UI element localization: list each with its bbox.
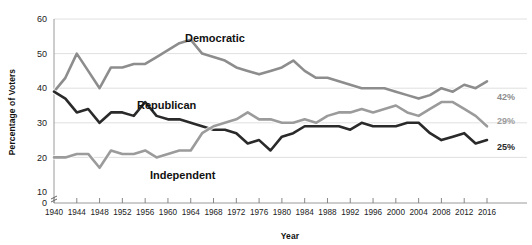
x-tick-label: 1980 xyxy=(273,208,292,217)
y-tick-label: 10 xyxy=(37,187,47,197)
x-tick-label: 1964 xyxy=(182,208,201,217)
chart-svg: 0102030405060 19401944194819521956196019… xyxy=(0,0,532,245)
end-label-democratic: 42% xyxy=(497,92,515,102)
y-tick-label: 50 xyxy=(37,49,47,59)
y-tick-label: 20 xyxy=(37,153,47,163)
x-tick-label: 1984 xyxy=(296,208,315,217)
x-tick-label: 2012 xyxy=(455,208,474,217)
x-tick-label: 1940 xyxy=(45,208,64,217)
x-axis-title: Year xyxy=(281,231,300,241)
series-annotation-independent: Independent xyxy=(150,169,216,181)
end-label-republican: 25% xyxy=(497,142,515,152)
end-label-independent: 29% xyxy=(497,116,515,126)
x-tick-label: 1952 xyxy=(113,208,132,217)
x-tick-label: 1944 xyxy=(68,208,87,217)
x-tick-label: 2008 xyxy=(432,208,451,217)
y-tick-label: 40 xyxy=(37,83,47,93)
y-tick-label: 0 xyxy=(42,198,47,208)
x-tick-label: 1960 xyxy=(159,208,178,217)
x-tick-label: 2000 xyxy=(387,208,406,217)
y-tick-label: 30 xyxy=(37,118,47,128)
series-annotation-democratic: Democratic xyxy=(185,32,245,44)
series-annotation-republican: Republican xyxy=(137,99,197,111)
y-tick-label: 60 xyxy=(37,14,47,24)
x-tick-label: 1968 xyxy=(204,208,223,217)
end-value-labels-group: 42%25%29% xyxy=(497,92,515,152)
x-tick-label: 1996 xyxy=(364,208,383,217)
party-identification-line-chart: 0102030405060 19401944194819521956196019… xyxy=(0,0,532,245)
y-axis-title: Percentage of Voters xyxy=(7,69,17,156)
x-tick-label: 1972 xyxy=(227,208,246,217)
x-tick-label: 1956 xyxy=(136,208,155,217)
x-tick-label: 2016 xyxy=(478,208,497,217)
x-tick-label: 1992 xyxy=(341,208,360,217)
x-tick-label: 2004 xyxy=(410,208,429,217)
x-tick-label: 1988 xyxy=(318,208,337,217)
x-tick-label: 1948 xyxy=(90,208,109,217)
x-tick-label: 1976 xyxy=(250,208,269,217)
